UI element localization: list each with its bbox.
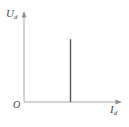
origin-label: O: [13, 100, 20, 110]
y-axis-label-symbol: U: [6, 7, 14, 19]
chart-figure: Ud Id O: [0, 0, 129, 127]
y-axis-arrow-icon: [22, 11, 27, 18]
x-axis-label-subscript: d: [114, 109, 118, 117]
y-axis-label-subscript: d: [14, 13, 18, 21]
x-axis-label: Id: [110, 104, 117, 115]
y-axis-label: Ud: [6, 8, 17, 19]
